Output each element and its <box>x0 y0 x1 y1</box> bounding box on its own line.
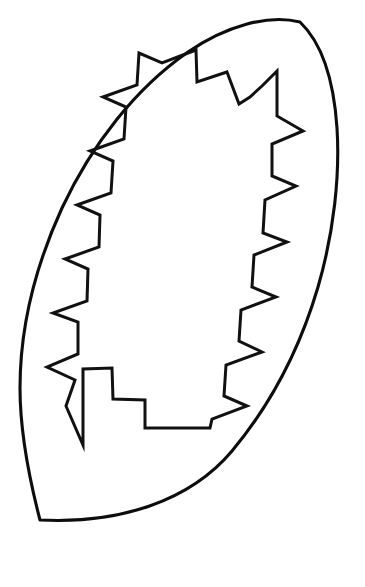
page-background <box>0 0 365 587</box>
leaf-drawing-svg <box>0 0 365 587</box>
drawing-canvas: Leaf Outline Coloring Drawing Hand-drawn… <box>0 0 365 587</box>
